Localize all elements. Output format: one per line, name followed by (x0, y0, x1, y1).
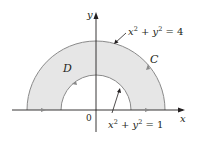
outer-circle-equation: x2 + y2 = 4 (128, 25, 183, 37)
x-axis-label: x (180, 113, 186, 124)
leader-arrow-icon (117, 88, 121, 93)
curve-label: C (150, 53, 159, 66)
region-label: D (62, 62, 72, 75)
y-axis-arrow-icon (94, 12, 99, 19)
x-axis-arrow-icon (178, 108, 185, 113)
origin-label: 0 (86, 113, 92, 123)
inner-circle-equation: x2 + y2 = 1 (108, 118, 163, 130)
annulus-diagram: y x 0 D C x2 + y2 = 4 x2 + y2 = 1 (0, 0, 200, 144)
y-axis-label: y (86, 9, 93, 20)
